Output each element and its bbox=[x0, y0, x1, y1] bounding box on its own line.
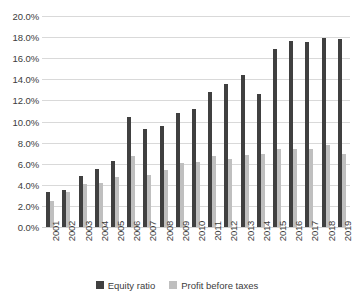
bar-profit-before-taxes[interactable] bbox=[180, 163, 184, 227]
chart-legend: Equity ratioProfit before taxes bbox=[0, 277, 354, 293]
y-axis-tick-label: 14.0% bbox=[13, 74, 39, 85]
bar-group bbox=[220, 16, 236, 227]
bar-profit-before-taxes[interactable] bbox=[309, 149, 313, 227]
bar-profit-before-taxes[interactable] bbox=[131, 156, 135, 227]
bar-group bbox=[334, 16, 350, 227]
x-axis-tick: 2013 bbox=[236, 229, 252, 271]
bar-group bbox=[204, 16, 220, 227]
x-axis-tick-label: 2019 bbox=[342, 221, 353, 241]
bar-group bbox=[285, 16, 301, 227]
bar-profit-before-taxes[interactable] bbox=[326, 145, 330, 227]
bar-profit-before-taxes[interactable] bbox=[228, 159, 232, 227]
x-axis-tick: 2019 bbox=[334, 229, 350, 271]
bar-chart: 0.0%2.0%4.0%6.0%8.0%10.0%12.0%14.0%16.0%… bbox=[0, 0, 354, 297]
x-axis-tick: 2015 bbox=[269, 229, 285, 271]
y-axis-tick-label: 2.0% bbox=[18, 200, 39, 211]
y-axis-tick-label: 6.0% bbox=[18, 158, 39, 169]
x-axis-tick: 2018 bbox=[317, 229, 333, 271]
bar-group bbox=[123, 16, 139, 227]
bar-group bbox=[42, 16, 58, 227]
bar-group bbox=[155, 16, 171, 227]
legend-swatch-icon bbox=[96, 281, 104, 289]
bar-group bbox=[107, 16, 123, 227]
x-axis-tick: 2001 bbox=[42, 229, 58, 271]
bar-group bbox=[236, 16, 252, 227]
y-axis-tick-label: 10.0% bbox=[13, 116, 39, 127]
legend-swatch-icon bbox=[169, 281, 177, 289]
y-axis-tick-label: 12.0% bbox=[13, 95, 39, 106]
bar-profit-before-taxes[interactable] bbox=[245, 155, 249, 227]
x-axis-tick: 2011 bbox=[204, 229, 220, 271]
legend-item[interactable]: Profit before taxes bbox=[169, 280, 258, 291]
x-axis-tick: 2009 bbox=[172, 229, 188, 271]
y-axis: 0.0%2.0%4.0%6.0%8.0%10.0%12.0%14.0%16.0%… bbox=[0, 0, 42, 232]
bar-profit-before-taxes[interactable] bbox=[261, 154, 265, 227]
y-axis-tick-label: 0.0% bbox=[18, 222, 39, 233]
bar-group bbox=[253, 16, 269, 227]
y-axis-tick-label: 18.0% bbox=[13, 32, 39, 43]
bar-profit-before-taxes[interactable] bbox=[115, 177, 119, 227]
bar-group bbox=[172, 16, 188, 227]
bar-profit-before-taxes[interactable] bbox=[342, 154, 346, 227]
x-axis-tick: 2002 bbox=[58, 229, 74, 271]
x-axis-tick: 2010 bbox=[188, 229, 204, 271]
legend-label: Profit before taxes bbox=[181, 280, 258, 291]
x-axis: 2001200220032004200520062007200820092010… bbox=[42, 229, 350, 271]
bar-group bbox=[269, 16, 285, 227]
bar-group bbox=[317, 16, 333, 227]
bar-group bbox=[91, 16, 107, 227]
x-axis-tick: 2016 bbox=[285, 229, 301, 271]
bar-group bbox=[74, 16, 90, 227]
x-axis-tick: 2007 bbox=[139, 229, 155, 271]
bar-profit-before-taxes[interactable] bbox=[293, 149, 297, 227]
x-axis-tick: 2014 bbox=[253, 229, 269, 271]
bar-profit-before-taxes[interactable] bbox=[147, 175, 151, 227]
bar-profit-before-taxes[interactable] bbox=[277, 149, 281, 227]
bar-groups bbox=[42, 16, 350, 227]
bar-profit-before-taxes[interactable] bbox=[196, 162, 200, 227]
plot-area bbox=[42, 16, 350, 227]
x-axis-tick: 2017 bbox=[301, 229, 317, 271]
legend-item[interactable]: Equity ratio bbox=[96, 280, 156, 291]
bar-group bbox=[188, 16, 204, 227]
y-axis-tick-label: 4.0% bbox=[18, 179, 39, 190]
bar-group bbox=[301, 16, 317, 227]
y-axis-tick-label: 20.0% bbox=[13, 11, 39, 22]
x-axis-tick: 2004 bbox=[91, 229, 107, 271]
y-axis-tick-label: 16.0% bbox=[13, 53, 39, 64]
bar-group bbox=[58, 16, 74, 227]
plot-wrapper: 0.0%2.0%4.0%6.0%8.0%10.0%12.0%14.0%16.0%… bbox=[0, 0, 354, 232]
bar-profit-before-taxes[interactable] bbox=[212, 156, 216, 227]
x-axis-tick: 2003 bbox=[74, 229, 90, 271]
legend-label: Equity ratio bbox=[108, 280, 156, 291]
x-axis-tick: 2008 bbox=[155, 229, 171, 271]
x-axis-tick: 2005 bbox=[107, 229, 123, 271]
bar-group bbox=[139, 16, 155, 227]
x-axis-tick: 2012 bbox=[220, 229, 236, 271]
bar-profit-before-taxes[interactable] bbox=[164, 170, 168, 227]
x-axis-tick: 2006 bbox=[123, 229, 139, 271]
y-axis-tick-label: 8.0% bbox=[18, 137, 39, 148]
